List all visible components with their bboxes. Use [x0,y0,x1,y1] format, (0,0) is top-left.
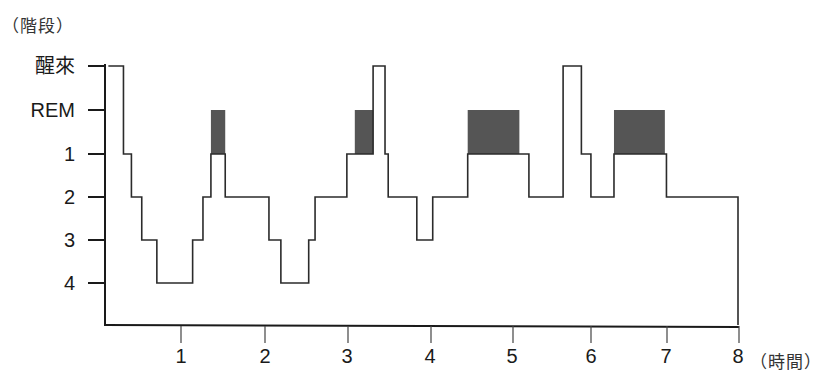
x-tick-label-4: 4 [420,345,440,367]
x-axis-line [104,325,739,327]
x-tick-label-8: 8 [728,345,748,367]
x-axis-title: （時間） [750,348,822,373]
y-tick-label-2: 2 [64,186,75,208]
y-tick-label-wake: 醒來 [35,55,75,77]
y-tick-label-4: 4 [64,272,75,294]
chart-canvas [0,0,840,391]
x-tick-label-3: 3 [337,345,357,367]
x-tick-label-1: 1 [171,345,191,367]
y-tick-label-3: 3 [64,229,75,251]
x-tick-label-5: 5 [502,345,522,367]
x-tick-label-2: 2 [255,345,275,367]
x-tick-label-6: 6 [581,345,601,367]
y-tick-label-rem: REM [31,99,75,121]
x-tick-label-7: 7 [656,345,676,367]
rem-block [468,110,520,154]
rem-periods [211,110,665,154]
axes [88,64,739,343]
rem-block [355,110,373,154]
y-axis-title: （階段） [2,12,74,37]
sleep-stage-trace [108,66,738,325]
rem-block [614,110,665,154]
rem-block [211,110,225,154]
stage-step-line [108,66,738,325]
y-tick-label-1: 1 [64,143,75,165]
